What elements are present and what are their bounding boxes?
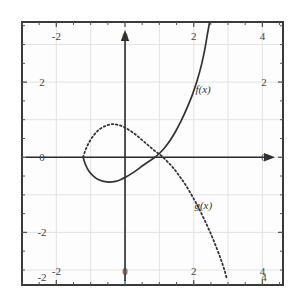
tick-label-bottom: 2 [191, 265, 197, 277]
plot-area: -2024-202420-2-2204 f(x)g(x) [0, 0, 304, 306]
curve-label-gx: g(x) [194, 199, 212, 212]
chart-figure: -2024-202420-2-2204 f(x)g(x) [0, 0, 304, 306]
tick-label-bottom: -2 [52, 265, 61, 277]
tick-label-top: 4 [260, 30, 266, 42]
tick-label-left: 0 [39, 151, 45, 163]
curve-label-fx: f(x) [195, 83, 211, 96]
tick-label-left: -2 [37, 271, 46, 283]
tick-label-top: 2 [191, 30, 197, 42]
tick-label-right: 4 [261, 271, 267, 283]
tick-label-right: 2 [261, 76, 267, 88]
tick-label-left: 2 [39, 76, 45, 88]
tick-label-top: 0 [122, 30, 128, 42]
tick-label-top: -2 [52, 30, 61, 42]
tick-label-left: -2 [37, 226, 46, 238]
plot-background [22, 22, 283, 285]
tick-label-right: 0 [261, 151, 267, 163]
plot-background-group [22, 22, 283, 285]
tick-label-bottom: 0 [122, 265, 128, 277]
